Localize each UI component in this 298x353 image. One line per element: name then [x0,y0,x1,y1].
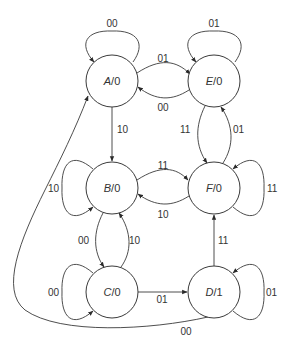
edge-B-C [96,213,104,267]
state-D-label: D/1 [205,286,222,298]
edge-label-D-A: 00 [180,326,192,337]
edge-label-A-B: 10 [117,124,129,135]
state-A-output: /0 [111,75,120,87]
state-B-label: B/0 [104,182,121,194]
edge-B-F [137,169,188,180]
edge-label-F-F: 11 [267,183,278,194]
state-C-name: C [103,286,111,298]
edge-label-F-E: 01 [233,124,245,135]
state-D-name: D [205,286,213,298]
edge-F-B [138,194,189,204]
edge-label-D-D: 01 [266,287,278,298]
edge-label-A-E: 01 [157,53,169,64]
edge-E-F [198,106,207,163]
edge-label-D-F: 11 [218,235,229,246]
edge-C-B [119,213,129,267]
state-A-label: A/0 [103,75,121,87]
state-E-label: E/0 [206,75,223,87]
edge-label-C-D: 01 [156,294,168,305]
edge-label-F-B: 10 [157,209,169,220]
edge-label-B-B: 10 [48,183,60,194]
edge-label-B-F: 11 [158,160,169,171]
state-C-output: /0 [111,286,120,298]
edge-label-C-C: 00 [48,287,60,298]
edge-label-E-A: 00 [157,102,169,113]
state-B-output: /0 [111,182,120,194]
state-diagram: A/0 E/0 B/0 F/0 C/0 D/1 00 01 01 00 10 1… [0,0,298,353]
state-F-output: /0 [213,182,222,194]
state-F-label: F/0 [206,182,222,194]
edge-label-C-B: 10 [129,235,141,246]
edge-label-B-C: 00 [78,235,90,246]
edge-label-E-E: 01 [208,18,220,29]
state-C-label: C/0 [103,286,120,298]
state-E-output: /0 [213,75,222,87]
edge-A-E [137,63,190,74]
edge-E-A [138,87,189,98]
state-A-name: A [103,75,111,87]
edge-F-E [221,107,231,163]
state-B-name: B [104,182,111,194]
state-D-output: /1 [213,286,222,298]
edge-label-A-A: 00 [106,18,118,29]
edge-label-E-F: 11 [180,124,191,135]
